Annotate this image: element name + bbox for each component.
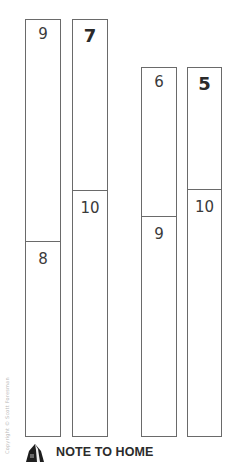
bar-1-top-number: 9 <box>26 27 60 42</box>
number-bar-4: 5 10 <box>187 67 222 437</box>
number-bar-2: 7 10 <box>72 19 108 437</box>
note-to-home-footer: NOTE TO HOME <box>24 442 154 462</box>
bar-2-top-number: 7 <box>73 27 107 45</box>
bar-1-bottom-number: 8 <box>26 252 60 267</box>
footer-title: NOTE TO HOME <box>56 445 154 459</box>
bar-2-divider: 10 <box>73 190 107 191</box>
bar-3-top-number: 6 <box>142 75 176 90</box>
number-bar-3: 6 9 <box>141 67 177 437</box>
bar-3-divider: 9 <box>142 216 176 217</box>
house-icon <box>24 442 46 462</box>
bar-4-top-number: 5 <box>188 75 221 93</box>
bar-4-bottom-number: 10 <box>188 200 221 215</box>
bar-3-bottom-number: 9 <box>142 227 176 242</box>
bar-2-bottom-number: 10 <box>73 201 107 216</box>
number-bar-1: 9 8 <box>25 19 61 437</box>
bar-1-divider: 8 <box>26 241 60 242</box>
copyright-text: Copyright © Scott Foresman <box>4 344 10 454</box>
bar-4-divider: 10 <box>188 189 221 190</box>
